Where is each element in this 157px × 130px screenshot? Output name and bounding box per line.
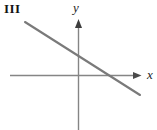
y-axis-arrowhead xyxy=(75,19,82,28)
y-axis-label: y xyxy=(73,1,79,14)
plotted-line xyxy=(25,22,140,95)
panel-label-III: III xyxy=(4,2,20,15)
x-axis-label: x xyxy=(147,68,153,81)
x-axis-arrowhead xyxy=(133,72,142,79)
coordinate-plane-svg xyxy=(0,0,157,130)
graph-figure-III: III y x xyxy=(0,0,157,130)
